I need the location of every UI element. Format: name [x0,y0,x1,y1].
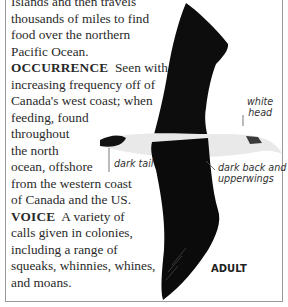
intro-line: Pacific Ocean. [11,44,161,61]
voice-line: squeaks, whinnies, whines, [11,258,161,275]
intro-line: Islands and then travels [11,0,161,11]
age-label: ADULT [211,263,247,274]
voice-line: calls given in colonies, [11,225,161,242]
occurrence-heading: OCCURRENCE [11,60,108,75]
white-head-label: white head [247,96,273,118]
intro-line: food over the northern [11,27,161,44]
dark-back-label: dark back and upperwings [218,162,286,184]
voice-line: and moans. [11,275,161,292]
occurrence-line: throughout [11,126,161,143]
occurrence-line: from the western coast [11,176,161,193]
occurrence-line: of Canada and the US. [11,192,161,209]
dark-tail-label: dark tail [114,158,154,169]
occurrence-line: Canada's west coast; when [11,93,161,110]
voice-heading: VOICE [11,209,55,224]
voice-line: including a range of [11,242,161,259]
voice-line: A variety of [61,209,125,224]
occurrence-line: the north [11,143,161,160]
occurrence-line: increasing frequency off of [11,77,161,94]
occurrence-line: feeding, found [11,110,161,127]
intro-line: thousands of miles to find [11,11,161,28]
occurrence-line: Seen with [115,60,168,75]
species-description: Islands and then travels thousands of mi… [11,0,161,291]
